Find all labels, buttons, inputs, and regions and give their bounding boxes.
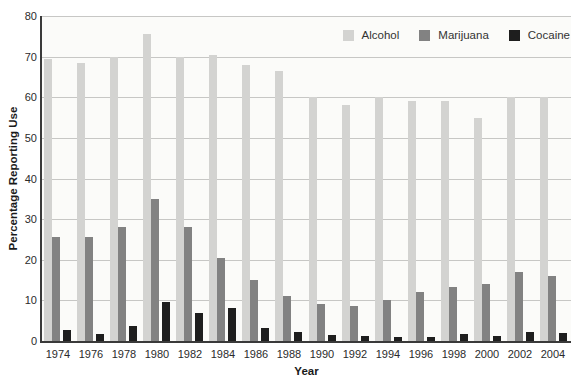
bar-alcohol-1984: [209, 55, 217, 341]
bar-alcohol-1978: [110, 57, 118, 341]
bar-alcohol-1998: [441, 101, 449, 341]
bar-alcohol-1996: [408, 101, 416, 341]
legend-label-marijuana: Marijuana: [438, 29, 489, 41]
legend: AlcoholMarijuanaCocaine: [343, 29, 570, 41]
bar-alcohol-1992: [342, 105, 350, 341]
bar-cocaine-1998: [460, 334, 468, 341]
bar-alcohol-1980: [143, 34, 151, 341]
x-tick-label-2004: 2004: [536, 348, 570, 360]
bar-alcohol-1976: [77, 63, 85, 341]
bar-cocaine-1974: [63, 330, 71, 341]
bar-marijuana-2000: [482, 284, 490, 341]
bar-marijuana-1990: [317, 304, 325, 341]
x-tick-label-2002: 2002: [503, 348, 537, 360]
bar-marijuana-1994: [383, 300, 391, 341]
bar-marijuana-1996: [416, 292, 424, 341]
drug-use-bar-chart: 01020304050607080 1974197619781980198219…: [0, 0, 586, 386]
x-tick-label-2000: 2000: [470, 348, 504, 360]
bar-cocaine-1984: [228, 308, 236, 341]
bar-cocaine-1978: [129, 326, 137, 341]
bar-marijuana-1980: [151, 199, 159, 341]
legend-swatch-cocaine-icon: [509, 30, 520, 41]
bar-alcohol-1994: [375, 97, 383, 341]
bar-marijuana-1974: [52, 237, 60, 341]
bar-marijuana-1982: [184, 227, 192, 341]
y-axis-title: Percentage Reporting Use: [6, 16, 20, 341]
x-tick-label-1982: 1982: [173, 348, 207, 360]
x-tick-label-1992: 1992: [338, 348, 372, 360]
bar-marijuana-1986: [250, 280, 258, 341]
bar-cocaine-1976: [96, 334, 104, 341]
bar-marijuana-1988: [283, 296, 291, 341]
legend-item-marijuana: Marijuana: [419, 29, 489, 41]
bar-marijuana-1978: [118, 227, 126, 341]
bar-alcohol-1988: [275, 71, 283, 341]
plot-area: [42, 16, 571, 341]
gridline-70: [42, 57, 571, 58]
bar-marijuana-1984: [217, 258, 225, 341]
bar-alcohol-1986: [242, 65, 250, 341]
x-axis-line: [40, 341, 571, 343]
y-axis-line: [40, 16, 42, 343]
legend-label-cocaine: Cocaine: [528, 29, 570, 41]
legend-swatch-marijuana-icon: [419, 30, 430, 41]
bar-marijuana-2004: [548, 276, 556, 341]
bar-marijuana-1992: [350, 306, 358, 341]
bar-cocaine-1982: [195, 313, 203, 341]
bar-cocaine-2004: [559, 333, 567, 341]
bar-alcohol-1982: [176, 57, 184, 341]
x-tick-label-1978: 1978: [107, 348, 141, 360]
x-tick-label-1998: 1998: [437, 348, 471, 360]
bar-alcohol-2002: [507, 97, 515, 341]
x-tick-label-1990: 1990: [305, 348, 339, 360]
bar-cocaine-1988: [294, 332, 302, 341]
legend-item-cocaine: Cocaine: [509, 29, 570, 41]
x-tick-label-1984: 1984: [206, 348, 240, 360]
gridline-80: [42, 16, 571, 17]
x-tick-label-1988: 1988: [272, 348, 306, 360]
bar-cocaine-1986: [261, 328, 269, 341]
x-tick-label-1986: 1986: [239, 348, 273, 360]
bar-marijuana-1976: [85, 237, 93, 341]
legend-item-alcohol: Alcohol: [343, 29, 400, 41]
x-tick-label-1980: 1980: [140, 348, 174, 360]
x-tick-label-1976: 1976: [74, 348, 108, 360]
bar-cocaine-1980: [162, 302, 170, 341]
legend-swatch-alcohol-icon: [343, 30, 354, 41]
gridline-60: [42, 97, 571, 98]
bar-cocaine-2002: [526, 332, 534, 341]
bar-alcohol-1974: [44, 59, 52, 341]
x-tick-label-1996: 1996: [404, 348, 438, 360]
x-tick-label-1994: 1994: [371, 348, 405, 360]
bar-marijuana-2002: [515, 272, 523, 341]
gridline-30: [42, 219, 571, 220]
x-tick-label-1974: 1974: [41, 348, 75, 360]
bar-alcohol-2000: [474, 118, 482, 341]
legend-label-alcohol: Alcohol: [362, 29, 400, 41]
bar-marijuana-1998: [449, 287, 457, 341]
bar-alcohol-2004: [540, 97, 548, 341]
gridline-50: [42, 138, 571, 139]
x-axis-title: Year: [42, 365, 571, 377]
bar-alcohol-1990: [309, 97, 317, 341]
gridline-40: [42, 179, 571, 180]
